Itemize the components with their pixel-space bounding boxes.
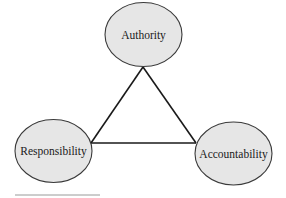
edges: [91, 67, 196, 143]
node-label-accountability: Accountability: [199, 148, 268, 161]
edge-authority-responsibility: [91, 67, 143, 143]
node-authority: Authority: [105, 3, 182, 67]
edge-authority-accountability: [143, 67, 196, 143]
node-label-responsibility: Responsibility: [20, 145, 87, 158]
triangle-diagram: Authority Responsibility Accountability: [0, 0, 286, 198]
node-label-authority: Authority: [121, 29, 166, 42]
node-responsibility: Responsibility: [15, 120, 92, 183]
node-accountability: Accountability: [195, 122, 272, 185]
